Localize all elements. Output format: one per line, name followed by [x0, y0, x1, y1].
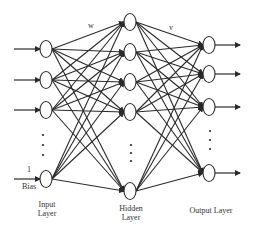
edge-input-hidden — [52, 22, 124, 179]
hidden-node — [124, 74, 136, 91]
hidden-node — [124, 104, 136, 121]
output-layer-label: Output Layer — [186, 206, 236, 215]
edge-hidden-output — [136, 107, 203, 112]
input-node — [40, 171, 52, 188]
ellipsis-dot — [42, 144, 44, 146]
output-node — [203, 37, 215, 54]
hidden-layer-label-line1: Hidden — [115, 204, 147, 213]
edge-hidden-output — [136, 22, 203, 173]
weight-label-w: w — [88, 21, 94, 30]
bias-value-label: 1 — [27, 165, 31, 174]
hidden-node — [124, 183, 136, 200]
edge-hidden-output — [136, 173, 203, 191]
ellipsis-dot — [130, 144, 132, 146]
input-layer-label: Input Layer — [32, 200, 62, 218]
bias-label: Bias — [22, 182, 36, 191]
edge-input-hidden — [52, 179, 124, 191]
ellipsis-dot — [130, 152, 132, 154]
edge-hidden-output — [136, 45, 203, 191]
neural-network-diagram — [0, 0, 256, 232]
edge-hidden-output — [136, 82, 203, 173]
edge-hidden-output — [136, 112, 203, 173]
ellipsis-dot — [209, 130, 211, 132]
input-node — [40, 41, 52, 58]
weight-label-v: v — [169, 23, 173, 32]
edge-input-hidden — [52, 110, 124, 112]
neuron-nodes — [40, 14, 215, 200]
hidden-layer-label-line2: Layer — [115, 213, 147, 222]
ellipsis-dot — [42, 134, 44, 136]
ellipsis-dot — [130, 160, 132, 162]
ellipsis-dot — [209, 139, 211, 141]
input-layer-label-line2: Layer — [32, 209, 62, 218]
input-node — [40, 102, 52, 119]
output-node — [203, 99, 215, 116]
output-node — [203, 66, 215, 83]
input-layer-label-line1: Input — [32, 200, 62, 209]
hidden-layer-label: Hidden Layer — [115, 204, 147, 222]
input-node — [40, 72, 52, 89]
output-node — [203, 165, 215, 182]
ellipsis-dot — [42, 154, 44, 156]
hidden-node — [124, 44, 136, 61]
ellipsis-dot — [209, 148, 211, 150]
edge-hidden-output — [136, 74, 203, 191]
hidden-node — [124, 14, 136, 31]
